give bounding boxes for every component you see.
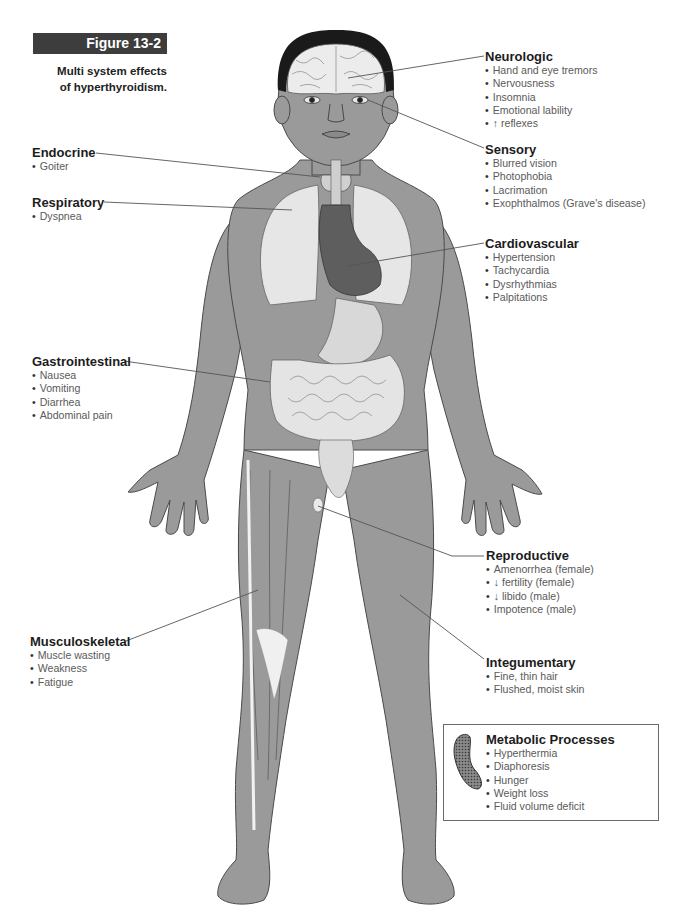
callout-title: Sensory — [485, 142, 645, 157]
callout-title: Respiratory — [32, 195, 104, 210]
symptom-list: Fine, thin hair Flushed, moist skin — [486, 670, 584, 697]
callout-title: Reproductive — [486, 548, 594, 563]
caption-line-1: Multi system effects — [30, 63, 167, 79]
list-item: Fluid volume deficit — [486, 800, 615, 813]
callout-title: Gastrointestinal — [32, 354, 131, 369]
callout-title: Integumentary — [486, 655, 584, 670]
list-item: ↑ reflexes — [485, 117, 598, 130]
list-item: Hypertension — [485, 251, 579, 264]
callout-title: Musculoskeletal — [30, 634, 130, 649]
list-item: Photophobia — [485, 170, 645, 183]
symptom-list: Blurred vision Photophobia Lacrimation E… — [485, 157, 645, 210]
mitochondrion-icon — [452, 733, 484, 793]
list-item: Fatigue — [30, 676, 130, 689]
list-item: Amenorrhea (female) — [486, 563, 594, 576]
callout-reproductive: Reproductive Amenorrhea (female) ↓ ferti… — [486, 548, 594, 616]
list-item: Tachycardia — [485, 264, 579, 277]
symptom-list: Nausea Vomiting Diarrhea Abdominal pain — [32, 369, 131, 422]
callout-gastrointestinal: Gastrointestinal Nausea Vomiting Diarrhe… — [32, 354, 131, 422]
list-item: Nausea — [32, 369, 131, 382]
list-item: ↓ fertility (female) — [486, 576, 594, 589]
list-item: Dyspnea — [32, 210, 104, 223]
list-item: Lacrimation — [485, 184, 645, 197]
callout-integumentary: Integumentary Fine, thin hair Flushed, m… — [486, 655, 584, 697]
list-item: Hunger — [486, 774, 615, 787]
list-item: Goiter — [32, 160, 96, 173]
leader-musculoskeletal — [126, 590, 258, 641]
list-item: Weakness — [30, 662, 130, 675]
list-item: Exophthalmos (Grave's disease) — [485, 197, 645, 210]
callout-title: Metabolic Processes — [486, 732, 615, 747]
list-item: ↓ libido (male) — [486, 590, 594, 603]
testis — [313, 498, 323, 512]
callout-title: Cardiovascular — [485, 236, 579, 251]
leader-endocrine — [96, 153, 320, 177]
callout-title: Endocrine — [32, 145, 96, 160]
list-item: Emotional lability — [485, 104, 598, 117]
callout-neurologic: Neurologic Hand and eye tremors Nervousn… — [485, 49, 598, 130]
caption-line-2: of hyperthyroidism. — [30, 79, 167, 95]
left-ear — [274, 96, 290, 124]
list-item: Fine, thin hair — [486, 670, 584, 683]
metabolic-processes-box: Metabolic Processes Hyperthermia Diaphor… — [443, 724, 659, 821]
symptom-list: Hypertension Tachycardia Dysrhythmias Pa… — [485, 251, 579, 304]
right-leg — [342, 450, 454, 904]
list-item: Flushed, moist skin — [486, 683, 584, 696]
symptom-list: Goiter — [32, 160, 96, 173]
symptom-list: Hyperthermia Diaphoresis Hunger Weight l… — [486, 747, 615, 813]
figure-caption: Multi system effects of hyperthyroidism. — [30, 63, 167, 95]
callout-endocrine: Endocrine Goiter — [32, 145, 96, 173]
list-item: Muscle wasting — [30, 649, 130, 662]
list-item: Abdominal pain — [32, 409, 131, 422]
symptom-list: Dyspnea — [32, 210, 104, 223]
list-item: Palpitations — [485, 291, 579, 304]
right-ear — [382, 96, 398, 124]
callout-musculoskeletal: Musculoskeletal Muscle wasting Weakness … — [30, 634, 130, 689]
figure-label: Figure 13-2 — [33, 33, 167, 54]
list-item: Blurred vision — [485, 157, 645, 170]
callout-cardiovascular: Cardiovascular Hypertension Tachycardia … — [485, 236, 579, 304]
list-item: Weight loss — [486, 787, 615, 800]
list-item: Impotence (male) — [486, 603, 594, 616]
intestines — [270, 355, 404, 441]
list-item: Diaphoresis — [486, 760, 615, 773]
list-item: Diarrhea — [32, 396, 131, 409]
trachea — [331, 160, 341, 205]
symptom-list: Hand and eye tremors Nervousness Insomni… — [485, 64, 598, 130]
list-item: Vomiting — [32, 382, 131, 395]
list-item: Insomnia — [485, 91, 598, 104]
list-item: Hyperthermia — [486, 747, 615, 760]
callout-respiratory: Respiratory Dyspnea — [32, 195, 104, 223]
list-item: Hand and eye tremors — [485, 64, 598, 77]
symptom-list: Muscle wasting Weakness Fatigue — [30, 649, 130, 689]
callout-sensory: Sensory Blurred vision Photophobia Lacri… — [485, 142, 645, 210]
callout-metabolic: Metabolic Processes Hyperthermia Diaphor… — [486, 732, 615, 813]
list-item: Dysrhythmias — [485, 278, 579, 291]
list-item: Nervousness — [485, 77, 598, 90]
symptom-list: Amenorrhea (female) ↓ fertility (female)… — [486, 563, 594, 616]
callout-title: Neurologic — [485, 49, 598, 64]
